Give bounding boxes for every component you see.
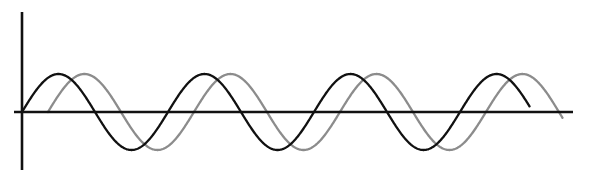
plot-canvas [0, 0, 589, 179]
sine-wave-figure [0, 0, 589, 179]
